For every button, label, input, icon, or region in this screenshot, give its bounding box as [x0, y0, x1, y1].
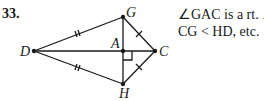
segment-DG — [34, 17, 123, 51]
point-D — [32, 49, 36, 53]
kite-diagram: D G A C H — [0, 0, 264, 101]
point-G — [121, 15, 125, 19]
label-H: H — [118, 86, 130, 101]
label-D: D — [19, 44, 30, 59]
label-C: C — [159, 44, 169, 59]
point-C — [153, 49, 157, 53]
point-A — [121, 49, 125, 53]
label-G: G — [126, 5, 136, 20]
label-A: A — [110, 36, 120, 51]
